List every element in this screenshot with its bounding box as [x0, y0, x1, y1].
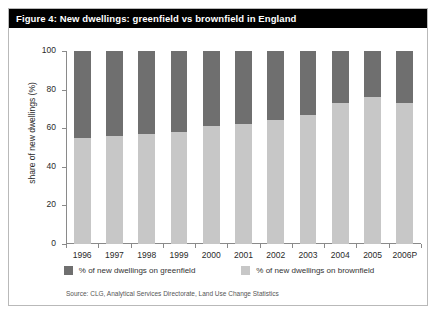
bar-segment-brownfield	[364, 97, 381, 244]
page-title: Figure 4: New dwellings: greenfield vs b…	[9, 13, 296, 24]
x-axis-tick-label: 2002	[260, 250, 292, 260]
y-axis-tick-label: 60	[47, 122, 56, 132]
bar-segment-brownfield	[235, 124, 252, 244]
bar-segment-brownfield	[396, 103, 413, 244]
bar-stack[interactable]	[267, 51, 284, 244]
chart-legend: % of new dwellings on greenfield% of new…	[9, 266, 428, 275]
legend-label: % of new dwellings on brownfield	[256, 266, 374, 275]
y-axis-tick: 20	[9, 205, 66, 206]
bar-stack[interactable]	[396, 51, 413, 244]
source-note: Source: CLG, Analytical Services Directo…	[66, 290, 279, 297]
y-axis-tick-label: 20	[47, 199, 56, 209]
x-axis-tick-label: 1997	[98, 250, 130, 260]
figure-container: Figure 4: New dwellings: greenfield vs b…	[8, 8, 428, 306]
bar-stack[interactable]	[300, 51, 317, 244]
figure-title-bar: Figure 4: New dwellings: greenfield vs b…	[9, 9, 428, 28]
legend-item[interactable]: % of new dwellings on greenfield	[64, 266, 196, 275]
bar-segment-greenfield	[267, 51, 284, 120]
legend-swatch-icon	[241, 266, 250, 275]
y-axis-tick-label: 80	[47, 84, 56, 94]
bar-segment-brownfield	[300, 115, 317, 244]
x-axis-tick-mark	[356, 244, 357, 248]
bar-segment-brownfield	[171, 132, 188, 244]
legend-swatch-icon	[64, 266, 73, 275]
y-axis-tick: 80	[9, 90, 66, 91]
x-axis-tick-label: 2000	[195, 250, 227, 260]
x-axis-tick-label: 1999	[163, 250, 195, 260]
y-axis-tick: 100	[9, 51, 66, 52]
bar-segment-brownfield	[138, 134, 155, 244]
bar-segment-greenfield	[138, 51, 155, 134]
x-axis-tick-mark	[324, 244, 325, 248]
x-axis-tick-mark	[227, 244, 228, 248]
legend-label: % of new dwellings on greenfield	[79, 266, 196, 275]
bar-group: 1996199719981999200020012002200320042005…	[66, 51, 421, 244]
y-axis-tick-label: 40	[47, 161, 56, 171]
x-axis-tick-label: 2005	[356, 250, 388, 260]
bar-stack[interactable]	[106, 51, 123, 244]
x-axis-tick-mark	[98, 244, 99, 248]
x-axis-tick-mark	[389, 244, 390, 248]
x-axis-tick-label: 2004	[324, 250, 356, 260]
x-axis-tick-mark	[131, 244, 132, 248]
y-axis-tick: 40	[9, 167, 66, 168]
y-axis-tick-label: 0	[51, 238, 56, 248]
bar-segment-greenfield	[300, 51, 317, 115]
bar-segment-brownfield	[106, 136, 123, 244]
x-axis-tick-mark	[421, 244, 422, 248]
bar-segment-greenfield	[203, 51, 220, 126]
x-axis-tick-mark	[163, 244, 164, 248]
bar-segment-greenfield	[235, 51, 252, 124]
chart-plot-area: share of new dwellings (%) 020406080100 …	[9, 28, 428, 306]
bar-segment-greenfield	[396, 51, 413, 103]
bar-stack[interactable]	[171, 51, 188, 244]
y-axis-label: share of new dwellings (%)	[27, 48, 37, 218]
legend-item[interactable]: % of new dwellings on brownfield	[241, 266, 374, 275]
bar-stack[interactable]	[235, 51, 252, 244]
bar-stack[interactable]	[364, 51, 381, 244]
x-axis-tick-label: 1998	[131, 250, 163, 260]
y-axis-tick: 0	[9, 244, 66, 245]
bar-stack[interactable]	[74, 51, 91, 244]
y-axis-tick-label: 100	[42, 45, 56, 55]
bar-segment-brownfield	[74, 138, 91, 244]
bar-segment-greenfield	[332, 51, 349, 103]
bar-segment-greenfield	[364, 51, 381, 97]
bar-segment-brownfield	[203, 126, 220, 244]
bar-stack[interactable]	[203, 51, 220, 244]
x-axis-tick-label: 2003	[292, 250, 324, 260]
x-axis-tick-mark	[195, 244, 196, 248]
x-axis-tick-label: 2001	[227, 250, 259, 260]
bar-stack[interactable]	[332, 51, 349, 244]
x-axis-tick-mark	[292, 244, 293, 248]
bar-segment-greenfield	[171, 51, 188, 132]
x-axis-tick-mark	[260, 244, 261, 248]
x-axis-tick-label: 1996	[66, 250, 98, 260]
bar-segment-brownfield	[267, 120, 284, 244]
bar-segment-greenfield	[74, 51, 91, 138]
x-axis-tick-label: 2006P	[389, 250, 421, 260]
bar-segment-brownfield	[332, 103, 349, 244]
y-axis-tick: 60	[9, 128, 66, 129]
bar-stack[interactable]	[138, 51, 155, 244]
bar-segment-greenfield	[106, 51, 123, 136]
x-axis-tick-mark	[66, 244, 67, 248]
